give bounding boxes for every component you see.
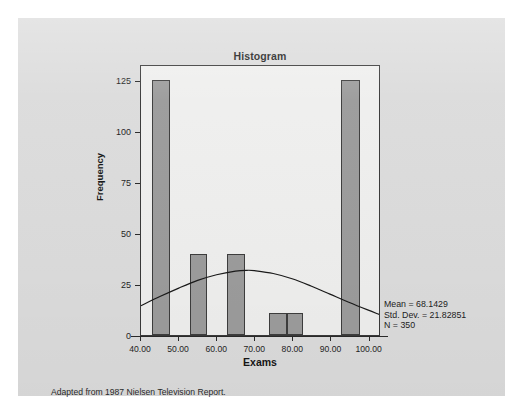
x-axis-tick-label: 70.00 xyxy=(244,344,266,354)
x-axis-tick-label: 60.00 xyxy=(205,344,227,354)
x-axis-tick-mark xyxy=(292,336,293,341)
plot-area xyxy=(140,65,380,336)
x-axis-tick-mark xyxy=(330,336,331,341)
x-axis-tick-mark xyxy=(140,336,141,341)
x-axis-tick-label: 40.00 xyxy=(129,344,151,354)
x-axis-tick-label: 100.00 xyxy=(355,344,381,354)
x-axis-tick-mark xyxy=(254,336,255,341)
x-axis-tick-label: 90.00 xyxy=(320,344,342,354)
page-title: Histogram xyxy=(122,50,398,62)
y-axis: 0255075100125 xyxy=(18,18,140,356)
y-axis-tick-label: 50 xyxy=(121,229,131,239)
stat-n: N = 350 xyxy=(384,320,466,331)
y-axis-tick-mark xyxy=(135,234,140,235)
x-axis-tick-label: 80.00 xyxy=(282,344,304,354)
x-axis-tick-mark xyxy=(369,336,370,341)
y-axis-tick-mark xyxy=(135,285,140,286)
stat-stddev: Std. Dev. = 21.82851 xyxy=(384,310,466,321)
plot-inner xyxy=(141,66,379,335)
y-axis-tick-label: 25 xyxy=(121,280,131,290)
y-axis-tick-label: 75 xyxy=(121,178,131,188)
y-axis-label: Frequency xyxy=(94,153,105,201)
y-axis-tick-label: 125 xyxy=(116,76,131,86)
x-axis-tick-mark xyxy=(178,336,179,341)
x-axis-tick-mark xyxy=(216,336,217,341)
statistics-annotation: Mean = 68.1429 Std. Dev. = 21.82851 N = … xyxy=(384,299,466,331)
figure-caption: Adapted from 1987 Nielsen Television Rep… xyxy=(51,387,226,397)
x-axis-tick-label: 50.00 xyxy=(167,344,189,354)
normal-distribution-curve xyxy=(141,66,379,335)
x-axis-label: Exams xyxy=(140,356,380,368)
y-axis-tick-mark xyxy=(135,183,140,184)
y-axis-tick-mark xyxy=(135,132,140,133)
curve-path xyxy=(141,270,379,314)
y-axis-tick-mark xyxy=(135,81,140,82)
figure-panel: Histogram 0255075100125 40.0050.0060.007… xyxy=(18,18,505,396)
y-axis-tick-label: 100 xyxy=(116,127,131,137)
stat-mean: Mean = 68.1429 xyxy=(384,299,466,310)
